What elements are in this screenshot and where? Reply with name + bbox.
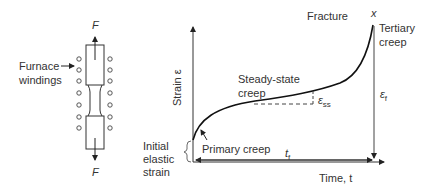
y-axis-label: Strain ε	[171, 69, 183, 106]
initial-label-1: Initial	[143, 140, 169, 152]
tf-label: tf	[285, 147, 290, 164]
force-top-label: F	[92, 19, 99, 31]
x-axis-label: Time, t	[319, 172, 352, 184]
steady-label-2: creep	[238, 87, 266, 99]
initial-label-2: elastic	[143, 153, 174, 165]
fracture-marker: x	[371, 7, 377, 19]
ef-label: εf	[380, 88, 387, 105]
tertiary-label-2: creep	[379, 36, 407, 48]
furnace-label-2: windings	[19, 74, 62, 86]
furnace-windings	[77, 57, 112, 130]
tertiary-label-1: Tertiary	[379, 22, 415, 34]
furnace-label-1: Furnace	[19, 60, 59, 72]
creep-diagram	[0, 0, 423, 188]
specimen	[86, 37, 104, 160]
fracture-label: Fracture	[307, 10, 348, 22]
initial-label-3: strain	[143, 166, 170, 178]
steady-label-1: Steady-state	[238, 73, 300, 85]
primary-creep-label: Primary creep	[202, 143, 270, 155]
ess-label: εss	[318, 94, 331, 111]
force-bottom-label: F	[92, 166, 99, 178]
